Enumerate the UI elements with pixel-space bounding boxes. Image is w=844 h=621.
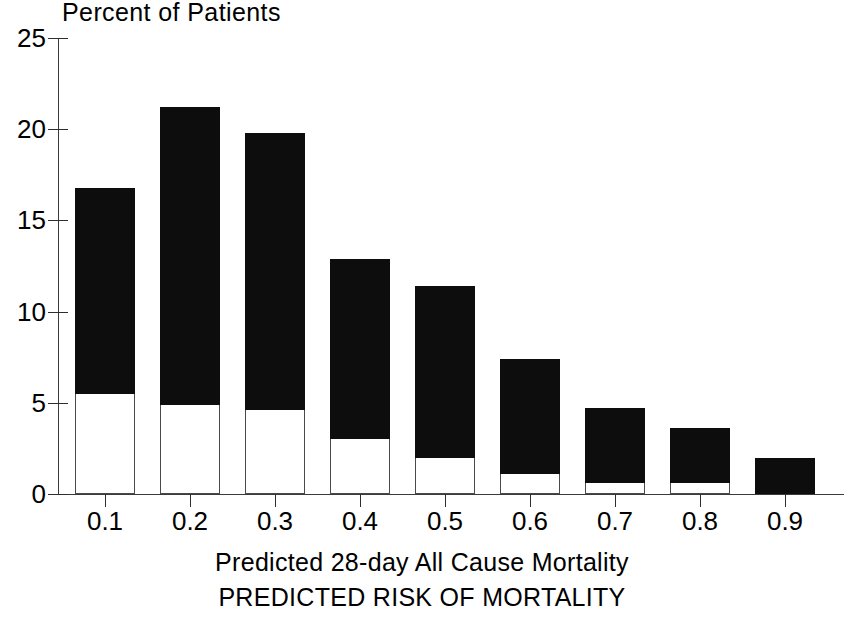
chart-title: Percent of Patients bbox=[62, 0, 281, 27]
y-axis-tick bbox=[48, 403, 68, 404]
y-axis-tick bbox=[48, 312, 68, 313]
x-axis-tick-label: 0.3 bbox=[240, 508, 310, 534]
bar-segment-upper bbox=[755, 458, 815, 494]
bar bbox=[330, 259, 390, 494]
bar-segment-upper bbox=[670, 428, 730, 483]
x-axis-tick-label: 0.8 bbox=[665, 508, 735, 534]
bar-segment-lower bbox=[415, 458, 475, 494]
y-axis-tick-label: 20 bbox=[2, 116, 46, 142]
bar bbox=[160, 107, 220, 494]
x-axis-tick-label: 0.1 bbox=[70, 508, 140, 534]
bar-segment-lower bbox=[75, 394, 135, 494]
x-axis-tick-label: 0.4 bbox=[325, 508, 395, 534]
bar-segment-lower bbox=[330, 439, 390, 494]
y-axis-tick-label: 15 bbox=[2, 207, 46, 233]
bar-segment-upper bbox=[160, 107, 220, 404]
x-axis-tick-label: 0.5 bbox=[410, 508, 480, 534]
x-axis-tick-label: 0.9 bbox=[750, 508, 820, 534]
bar-segment-lower bbox=[670, 483, 730, 494]
x-axis-tick-label: 0.2 bbox=[155, 508, 225, 534]
bar-segment-lower bbox=[160, 405, 220, 494]
bar-segment-upper bbox=[245, 133, 305, 410]
x-axis-line bbox=[58, 494, 844, 495]
y-axis-line bbox=[58, 38, 59, 495]
chart-figure: Percent of Patients 0510152025 0.10.20.3… bbox=[0, 0, 844, 621]
y-axis-tick bbox=[48, 129, 68, 130]
y-axis-tick-label: 10 bbox=[2, 299, 46, 325]
bar bbox=[245, 133, 305, 494]
bar-segment-lower bbox=[585, 483, 645, 494]
y-axis-tick bbox=[48, 38, 68, 39]
y-axis-tick-label: 25 bbox=[2, 25, 46, 51]
bar-segment-upper bbox=[415, 286, 475, 457]
y-axis-tick-label: 5 bbox=[2, 390, 46, 416]
bar bbox=[75, 188, 135, 494]
bar-segment-lower bbox=[245, 410, 305, 494]
bar bbox=[415, 286, 475, 494]
bar-segment-upper bbox=[330, 259, 390, 440]
y-axis-tick-label: 0 bbox=[2, 481, 46, 507]
bar bbox=[755, 458, 815, 494]
x-axis-tick-label: 0.7 bbox=[580, 508, 650, 534]
bar-segment-lower bbox=[500, 474, 560, 494]
bar-segment-upper bbox=[500, 359, 560, 474]
x-axis-tick-label: 0.6 bbox=[495, 508, 565, 534]
bar bbox=[585, 408, 645, 494]
bar-segment-upper bbox=[75, 188, 135, 394]
bar bbox=[500, 359, 560, 494]
x-axis-caption: Predicted 28-day All Cause Mortality bbox=[0, 548, 844, 577]
y-axis-tick bbox=[48, 220, 68, 221]
x-axis-subcaption: PREDICTED RISK OF MORTALITY bbox=[0, 583, 844, 612]
y-axis-tick bbox=[48, 494, 68, 495]
bar bbox=[670, 428, 730, 494]
y-axis-tick-labels: 0510152025 bbox=[0, 0, 46, 621]
bar-segment-upper bbox=[585, 408, 645, 483]
